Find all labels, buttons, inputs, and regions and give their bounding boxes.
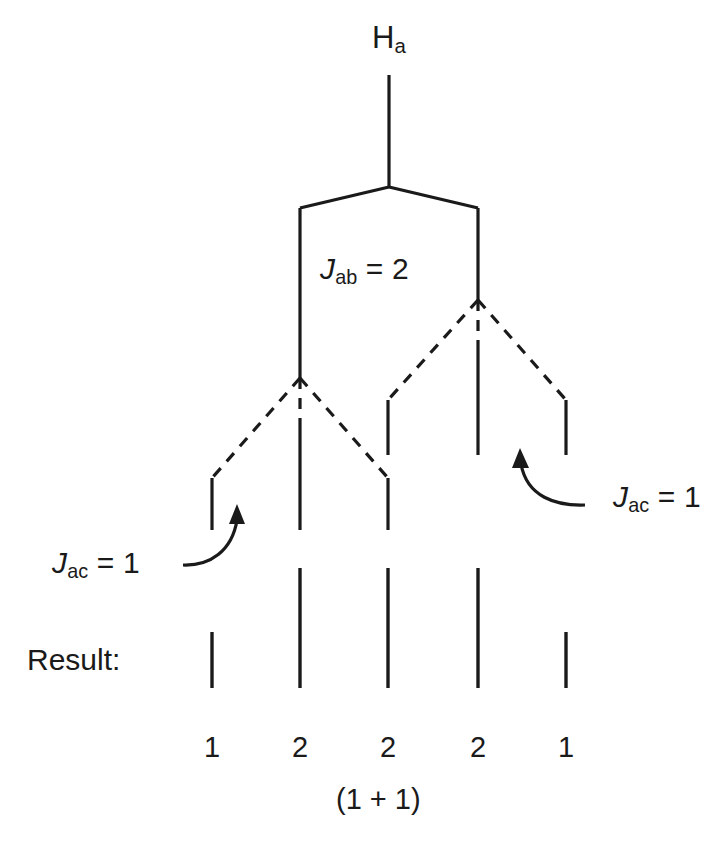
jac-right-symbol: J (613, 480, 628, 513)
coupling-label-jac-right: Jac = 1 (613, 482, 701, 516)
root-nucleus-subscript: a (395, 34, 406, 57)
jac-right-diagonal-inner (388, 300, 478, 400)
jab-subscript: ab (335, 266, 357, 288)
jac-left-value: 1 (123, 546, 140, 579)
coupling-label-jab: Jab = 2 (320, 254, 409, 288)
splitting-tree-svg (0, 0, 724, 852)
jab-branch-right-diagonal (389, 187, 478, 208)
root-nucleus-label: Ha (372, 22, 406, 57)
jac-left-arrow-curve (183, 520, 237, 565)
jab-value: 2 (392, 252, 409, 285)
coupling-label-jac-left: Jac = 1 (52, 548, 140, 582)
intensity-value-4: 2 (458, 733, 498, 762)
result-label: Result: (27, 645, 120, 675)
jac-left-symbol: J (52, 546, 67, 579)
jac-right-diagonal-outer (478, 300, 566, 400)
intensity-value-2: 2 (280, 733, 320, 762)
jac-right-arrow-curve (521, 464, 585, 505)
diagram-canvas: Ha Jab = 2 Jac = 1 Jac = 1 Result: 1 2 2… (0, 0, 724, 852)
jab-branch-left-diagonal (300, 187, 389, 208)
overlap-sum-note: (1 + 1) (336, 785, 421, 814)
root-nucleus-element: H (372, 20, 395, 55)
jab-equals: = (366, 252, 384, 285)
intensity-value-3: 2 (368, 733, 408, 762)
jac-right-equals: = (658, 480, 676, 513)
jab-symbol: J (320, 252, 335, 285)
intensity-value-5: 1 (546, 733, 586, 762)
jac-left-equals: = (97, 546, 115, 579)
jac-left-diagonal-outer (212, 378, 300, 478)
intensity-value-1: 1 (192, 733, 232, 762)
jac-left-diagonal-inner (300, 378, 388, 478)
jac-right-subscript: ac (628, 494, 649, 516)
jac-right-value: 1 (684, 480, 701, 513)
jac-left-arrowhead (229, 504, 245, 524)
jac-left-subscript: ac (67, 560, 88, 582)
jac-right-arrowhead (512, 448, 529, 468)
